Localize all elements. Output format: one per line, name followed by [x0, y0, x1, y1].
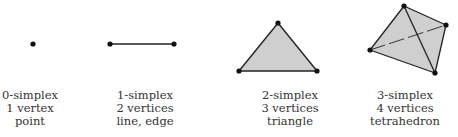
vertex-dot [30, 41, 35, 46]
label-3-simplex: 3-simplex 4 vertices tetrahedron [350, 89, 458, 128]
simplex-description: line, edge [90, 115, 200, 128]
vertex-dot [236, 68, 241, 73]
vertex-dot [107, 41, 112, 46]
label-0-simplex: 0-simplex 1 vertex point [0, 89, 85, 128]
vertex-dot [432, 70, 437, 75]
vertex-dot [367, 47, 372, 52]
simplex-description: triangle [235, 115, 345, 128]
vertex-dot [443, 22, 448, 27]
vertex-dot [171, 41, 176, 46]
simplex-description: point [0, 115, 85, 128]
simplex-2-shape [236, 20, 319, 73]
simplex-face [239, 23, 317, 71]
vertex-dot [401, 3, 406, 8]
vertex-dot [314, 68, 319, 73]
simplex-description: tetrahedron [350, 115, 458, 128]
label-1-simplex: 1-simplex 2 vertices line, edge [90, 89, 200, 128]
label-2-simplex: 2-simplex 3 vertices triangle [235, 89, 345, 128]
simplex-3-shape [367, 3, 448, 75]
simplex-0-shape [30, 41, 35, 46]
vertex-dot [275, 20, 280, 25]
simplex-1-shape [107, 41, 176, 46]
